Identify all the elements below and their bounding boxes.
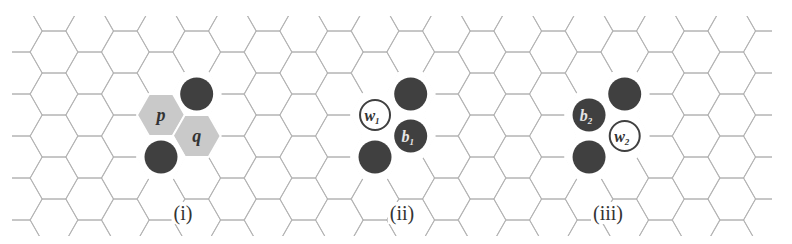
- black-stone-icon: [394, 78, 427, 111]
- panel-label-ii: (ii): [388, 202, 416, 224]
- hex-cell: [280, 52, 328, 94]
- hex-cell: [315, 199, 363, 241]
- hex-cell: [244, 31, 292, 73]
- hex-cell: [244, 115, 292, 157]
- hex-cell: [30, 199, 78, 241]
- hex-cell: [458, 31, 506, 73]
- hex-cell: [529, 199, 577, 241]
- hex-cell: [422, 10, 470, 52]
- hex-cell: [565, 10, 613, 52]
- hex-cell: [208, 178, 256, 220]
- black-stone-icon: [180, 78, 213, 111]
- hex-cell: [137, 10, 185, 52]
- hex-cell: [387, 31, 435, 73]
- hex-cell: [672, 157, 720, 199]
- hex-cell: [280, 10, 328, 52]
- hex-cell: [30, 157, 78, 199]
- hex-cell: [422, 178, 470, 220]
- hex-cell: [244, 73, 292, 115]
- grid-mask-top: [0, 0, 792, 16]
- grid-mask-right: [772, 0, 792, 244]
- cell-label: p: [155, 105, 166, 125]
- hex-cell: [708, 94, 756, 136]
- hex-cell: [494, 10, 542, 52]
- black-stone-icon: [394, 120, 427, 153]
- hex-cell: [458, 115, 506, 157]
- hex-cell: [672, 199, 720, 241]
- hex-cell: [208, 10, 256, 52]
- hex-cell: [30, 73, 78, 115]
- hex-cell: [494, 52, 542, 94]
- hex-cell: [280, 178, 328, 220]
- hex-cell: [708, 10, 756, 52]
- hex-cell: [458, 199, 506, 241]
- hex-cell: [280, 136, 328, 178]
- marked-cells: pqw1b1b2w2: [137, 73, 649, 178]
- hex-cell: [244, 199, 292, 241]
- hex-cell: [66, 94, 114, 136]
- hex-cell: [280, 94, 328, 136]
- hex-cell: [636, 178, 684, 220]
- grid-mask-left: [0, 0, 12, 244]
- hex-cell: [244, 157, 292, 199]
- panel-label-iii: (iii): [591, 202, 625, 224]
- hex-cell: [708, 136, 756, 178]
- black-stone-icon: [573, 141, 606, 174]
- grid-mask-bottom: [0, 236, 792, 244]
- black-stone-icon: [359, 141, 392, 174]
- hex-cell: [458, 73, 506, 115]
- black-stone-icon: [573, 99, 606, 132]
- hex-cell: [672, 115, 720, 157]
- black-stone-icon: [145, 141, 178, 174]
- hex-cell: [494, 178, 542, 220]
- hex-cell: [672, 31, 720, 73]
- hex-cell: [101, 31, 149, 73]
- hex-cell: [66, 52, 114, 94]
- hex-cell: [30, 115, 78, 157]
- hex-cell: [494, 136, 542, 178]
- hex-cell: [101, 199, 149, 241]
- hex-cell: [708, 52, 756, 94]
- hex-cell: [636, 10, 684, 52]
- hex-cell: [494, 94, 542, 136]
- hex-cell: [351, 10, 399, 52]
- hex-cell: [66, 178, 114, 220]
- panel-label-i: (i): [172, 202, 195, 224]
- hex-cell: [458, 157, 506, 199]
- hex-cell: [601, 31, 649, 73]
- hex-cell: [315, 31, 363, 73]
- hex-cell: [672, 73, 720, 115]
- cell-label: q: [192, 126, 201, 146]
- black-stone-icon: [608, 78, 641, 111]
- hex-cell: [66, 136, 114, 178]
- hex-cell: [529, 31, 577, 73]
- hex-cell: [30, 31, 78, 73]
- hex-cell: [173, 31, 221, 73]
- hex-cell: [708, 178, 756, 220]
- hex-cell: [66, 10, 114, 52]
